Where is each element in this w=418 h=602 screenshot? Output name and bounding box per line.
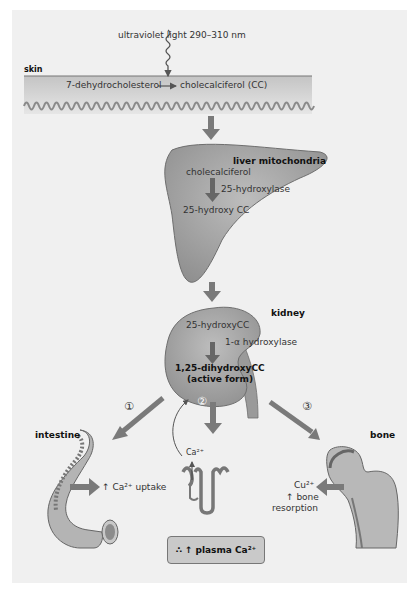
skin-product: cholecalciferol (CC): [180, 80, 267, 90]
diagram-graphics: [0, 0, 418, 602]
uv-label: ultraviolet light 290–310 nm: [118, 30, 246, 40]
skin-label: skin: [24, 65, 43, 74]
increase-arrow-icon: ↑: [185, 545, 193, 555]
kidney-product-line2: (active form): [187, 374, 253, 384]
intestine-label: intestine: [35, 430, 80, 440]
pathway-number-3: ③: [302, 400, 312, 413]
result-box: ∴ ↑ plasma Ca²⁺: [167, 536, 265, 564]
liver-label: liver mitochondria: [233, 156, 326, 166]
liver-enzyme: 25-hydroxylase: [221, 184, 290, 194]
liver-reactant: cholecalciferol: [186, 167, 251, 177]
kidney-tubule: [183, 468, 228, 513]
tubule-ion: Ca²⁺: [186, 448, 204, 457]
result-text: plasma Ca²⁺: [195, 545, 256, 555]
pathway-number-2: ②: [197, 395, 207, 408]
bone-effect-line1: ↑ bone: [286, 492, 319, 502]
skin-reactant: 7-dehydrocholesterol: [66, 80, 161, 90]
pathway-number-1: ①: [124, 400, 134, 413]
bone-label: bone: [370, 430, 395, 440]
kidney-enzyme: 1-α hydroxylase: [225, 337, 297, 347]
liver-product: 25-hydroxy CC: [183, 205, 249, 215]
arrow-skin-to-liver: [202, 116, 220, 140]
bone-effect-line2: resorption: [272, 503, 318, 513]
arrow-liver-to-kidney: [203, 282, 221, 302]
therefore-icon: ∴: [176, 545, 182, 555]
intestine-effect: ↑ Ca²⁺ uptake: [102, 482, 166, 492]
kidney-label: kidney: [271, 308, 305, 318]
kidney-reactant: 25-hydroxyCC: [186, 320, 249, 330]
bone-shape: [327, 447, 399, 548]
increase-arrow-icon: ↑: [102, 482, 110, 492]
kidney-product-line1: 1,25-dihydroxyCC: [175, 363, 265, 373]
bone-ion: Cu²⁺: [294, 480, 314, 490]
